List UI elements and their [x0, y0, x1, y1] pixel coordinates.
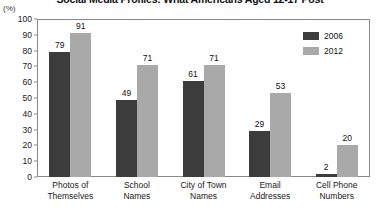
legend-swatch-icon [303, 47, 319, 55]
bar-2012: 53 [270, 93, 291, 177]
x-axis-category-label: Cell PhoneNumbers [303, 180, 370, 202]
bar-value-label: 71 [143, 53, 152, 63]
bar-2006: 61 [183, 81, 204, 177]
legend-label: 2006 [324, 31, 343, 41]
bar-2012: 71 [137, 65, 158, 177]
bar-2006: 29 [249, 131, 270, 177]
legend-swatch-icon [303, 32, 319, 40]
bar-2006: 79 [49, 52, 70, 177]
y-tick-label: 50 [23, 93, 32, 103]
bar-value-label: 20 [342, 133, 351, 143]
x-axis-category-line: School [104, 180, 171, 191]
y-tick-label: 100 [18, 14, 32, 24]
bar-value-label: 2 [324, 162, 329, 172]
x-axis-category-line: Themselves [37, 191, 104, 202]
bar-group: 4971 [116, 19, 158, 177]
y-tick-label: 80 [23, 46, 32, 56]
y-axis-unit-label: (%) [3, 4, 15, 13]
bar-group: 6171 [183, 19, 225, 177]
y-tick-label: 70 [23, 61, 32, 71]
x-axis-category-line: Addresses [237, 191, 304, 202]
legend-item-2006[interactable]: 2006 [303, 30, 365, 42]
chart-legend: 20062012 [303, 30, 365, 60]
chart-container: Social Media Profiles: What Americans Ag… [0, 0, 380, 214]
y-tick-label: 0 [27, 172, 32, 182]
bar-2012: 91 [70, 33, 91, 177]
y-tick-label: 10 [23, 156, 32, 166]
bar-2012: 20 [337, 145, 358, 177]
bar-value-label: 61 [188, 69, 197, 79]
x-axis-category-line: Numbers [303, 191, 370, 202]
x-axis-category-line: Names [104, 191, 171, 202]
y-tick-label: 40 [23, 109, 32, 119]
y-tick-label: 90 [23, 30, 32, 40]
bar-2012: 71 [204, 65, 225, 177]
legend-label: 2012 [324, 46, 343, 56]
x-axis-category-line: Email [237, 180, 304, 191]
y-tick-label: 20 [23, 140, 32, 150]
y-tick-label: 30 [23, 125, 32, 135]
x-axis-category-label: City of TownNames [170, 180, 237, 202]
x-axis-category-line: City of Town [170, 180, 237, 191]
x-axis-category-label: SchoolNames [104, 180, 171, 202]
bar-2006: 49 [116, 100, 137, 177]
chart-title: Social Media Profiles: What Americans Ag… [0, 0, 380, 5]
x-axis-category-line: Names [170, 191, 237, 202]
x-axis-category-label: EmailAddresses [237, 180, 304, 202]
bar-value-label: 91 [76, 21, 85, 31]
y-tick-label: 60 [23, 77, 32, 87]
bar-2006: 2 [316, 174, 337, 177]
x-axis-category-line: Photos of [37, 180, 104, 191]
bar-group: 2953 [249, 19, 291, 177]
bar-value-label: 53 [276, 81, 285, 91]
x-axis-labels: Photos ofThemselvesSchoolNamesCity of To… [37, 180, 370, 212]
bar-value-label: 71 [209, 53, 218, 63]
bar-value-label: 49 [122, 88, 131, 98]
x-axis-category-line: Cell Phone [303, 180, 370, 191]
y-axis: 1009080706050403020100 [0, 19, 37, 177]
x-axis-category-label: Photos ofThemselves [37, 180, 104, 202]
bar-value-label: 29 [255, 119, 264, 129]
bar-value-label: 79 [55, 40, 64, 50]
legend-item-2012[interactable]: 2012 [303, 45, 365, 57]
bar-group: 7991 [49, 19, 91, 177]
